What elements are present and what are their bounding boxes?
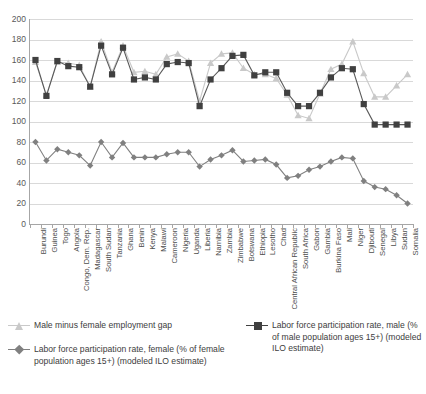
data-point bbox=[306, 166, 312, 172]
data-point bbox=[295, 173, 301, 179]
data-point bbox=[404, 121, 410, 127]
x-axis-category-label: Niger bbox=[355, 228, 363, 246]
data-point bbox=[32, 57, 38, 63]
data-point bbox=[65, 149, 71, 155]
x-axis-category-label: Tanzania bbox=[114, 228, 122, 258]
data-point bbox=[372, 184, 378, 190]
data-point bbox=[142, 74, 148, 80]
data-point bbox=[142, 154, 148, 160]
x-axis-category-label: Ethiopia bbox=[257, 228, 265, 255]
data-point bbox=[120, 45, 126, 51]
chart-legend: Male minus female employment gapLabor fo… bbox=[8, 318, 420, 392]
data-point bbox=[207, 76, 213, 82]
data-point bbox=[32, 139, 38, 145]
legend-item: Male minus female employment gap bbox=[8, 320, 238, 332]
data-point bbox=[350, 66, 356, 72]
data-point bbox=[317, 163, 323, 169]
x-axis-category-label: Lesotho bbox=[267, 228, 275, 255]
y-axis-tick-label: 60 bbox=[0, 158, 26, 167]
data-point bbox=[164, 61, 170, 67]
x-axis-category-label: Sudan bbox=[399, 228, 407, 250]
legend-label: Labor force participation rate, male (% … bbox=[272, 320, 426, 355]
data-point bbox=[361, 178, 367, 184]
x-axis-category-label: Zimbabwe bbox=[235, 228, 243, 263]
data-point bbox=[317, 90, 323, 96]
data-point bbox=[153, 154, 159, 160]
y-axis-tick-label: 0 bbox=[0, 220, 26, 229]
data-point bbox=[328, 158, 334, 164]
data-point bbox=[383, 121, 389, 127]
x-axis-category-label: Senegal bbox=[377, 228, 385, 256]
data-point bbox=[218, 65, 224, 71]
data-point bbox=[339, 65, 345, 71]
x-axis-category-label: Kenya bbox=[147, 228, 155, 250]
y-axis-tick-label: 100 bbox=[0, 117, 26, 126]
data-point bbox=[295, 103, 301, 109]
data-point bbox=[218, 152, 224, 158]
data-point bbox=[404, 71, 411, 77]
legend-marker-diamond-icon bbox=[8, 344, 30, 355]
y-axis-tick-label: 160 bbox=[0, 56, 26, 65]
data-point bbox=[273, 69, 279, 75]
series-triangle bbox=[32, 38, 411, 121]
series-diamond bbox=[32, 139, 410, 207]
x-axis-category-label: Cameroon bbox=[169, 228, 177, 263]
data-point bbox=[360, 70, 367, 76]
data-point bbox=[251, 157, 257, 163]
x-axis-category-label: Malawi bbox=[158, 228, 166, 252]
data-point bbox=[262, 156, 268, 162]
data-point bbox=[350, 155, 356, 161]
y-axis-tick-labels: 020406080100120140160180200 bbox=[0, 0, 26, 232]
x-axis-category-label: Togo bbox=[60, 228, 68, 244]
data-point bbox=[98, 43, 104, 49]
data-point bbox=[141, 68, 148, 74]
data-point bbox=[153, 76, 159, 82]
data-point bbox=[262, 69, 268, 75]
y-axis-tick-label: 120 bbox=[0, 97, 26, 106]
x-axis-category-label: Libya bbox=[388, 228, 396, 246]
x-axis-category-label: Burundi bbox=[38, 228, 46, 254]
x-axis-category-label: Botswana bbox=[246, 228, 254, 261]
x-axis-category-label: Ghana bbox=[125, 228, 133, 251]
x-axis-category-label: South Africa bbox=[300, 228, 308, 269]
x-axis-category-label: Congo, Dem. Rep. bbox=[81, 228, 89, 291]
y-axis-tick-label: 180 bbox=[0, 35, 26, 44]
y-axis-tick-label: 40 bbox=[0, 179, 26, 188]
x-axis-category-label: Gambia bbox=[322, 228, 330, 255]
data-point bbox=[164, 151, 170, 157]
data-point bbox=[109, 71, 115, 77]
legend-marker-triangle-icon bbox=[8, 320, 30, 331]
data-point bbox=[87, 84, 93, 90]
data-point bbox=[175, 59, 181, 65]
x-axis-category-label: Gabon bbox=[311, 228, 319, 251]
plot-area: 020406080100120140160180200 bbox=[0, 0, 420, 232]
x-axis-category-label: Somalia bbox=[410, 228, 418, 255]
x-axis-category-label: Madagascar bbox=[92, 228, 100, 270]
data-point bbox=[65, 63, 71, 69]
x-axis-category-label: Namibia bbox=[213, 228, 221, 256]
legend-label: Male minus female employment gap bbox=[34, 320, 172, 332]
data-point bbox=[175, 149, 181, 155]
data-point bbox=[240, 52, 246, 58]
data-point bbox=[186, 60, 192, 66]
legend-marker-square-icon bbox=[246, 320, 268, 331]
x-axis-category-label: Central African Republic bbox=[289, 228, 297, 309]
data-series-layer bbox=[30, 19, 413, 224]
data-point bbox=[197, 103, 203, 109]
data-point bbox=[76, 64, 82, 70]
x-axis-category-label: Mali bbox=[344, 228, 352, 242]
x-axis-category-label: Chad bbox=[278, 228, 286, 246]
y-axis-tick-label: 200 bbox=[0, 15, 26, 24]
plot-panel bbox=[29, 19, 413, 225]
x-axis-category-label: Nigeria bbox=[180, 228, 188, 252]
y-axis-tick-label: 20 bbox=[0, 199, 26, 208]
x-axis-category-label: South Sudan bbox=[103, 228, 111, 272]
x-axis-category-label: Uganda bbox=[191, 228, 199, 255]
data-point bbox=[306, 103, 312, 109]
data-point bbox=[339, 154, 345, 160]
x-axis-category-labels: BurundiGuineaTogoAngolaCongo, Dem. Rep.M… bbox=[29, 228, 412, 306]
x-axis-category-label: Burkina Faso bbox=[333, 228, 341, 273]
data-point bbox=[131, 76, 137, 82]
data-point bbox=[207, 156, 213, 162]
